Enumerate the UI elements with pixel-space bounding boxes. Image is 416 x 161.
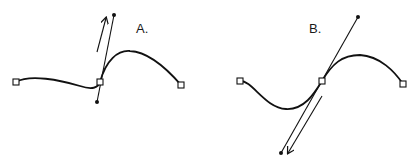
handle-point-bottom-b[interactable] [279, 151, 283, 155]
handle-point-bottom-a[interactable] [95, 100, 99, 104]
drag-arrow-icon-b [288, 96, 322, 153]
handle-point-top-a[interactable] [112, 13, 116, 17]
drag-arrow-icon-a [97, 18, 106, 52]
handle-point-top-b[interactable] [356, 15, 360, 19]
anchor-point-middle-b[interactable] [319, 78, 325, 84]
anchor-point-left-b[interactable] [237, 78, 243, 84]
diagram-label-a: A. [136, 21, 148, 36]
anchor-point-left-a[interactable] [13, 79, 19, 85]
direction-handle-b[interactable] [281, 17, 358, 153]
anchor-point-middle-a[interactable] [97, 79, 103, 85]
diagram-label-b: B. [309, 21, 321, 36]
diagram-b [237, 15, 406, 155]
bezier-diagrams [0, 0, 416, 161]
anchor-point-right-a[interactable] [178, 82, 184, 88]
anchor-point-right-b[interactable] [400, 81, 406, 87]
diagram-a [13, 13, 184, 104]
